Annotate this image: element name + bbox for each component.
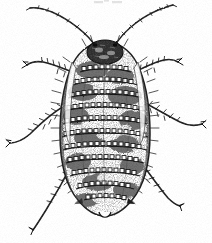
insect-engraving-svg [0,0,212,243]
insect-figure [0,0,212,243]
scan-grain-overlay [0,0,212,243]
